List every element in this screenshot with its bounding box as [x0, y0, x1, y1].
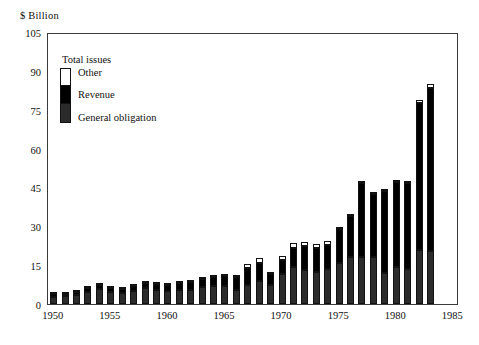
bar-segment-revenue [404, 183, 411, 269]
bar-segment-general-obligation [313, 272, 320, 304]
bar [233, 276, 240, 304]
bar [107, 288, 114, 304]
bar-segment-revenue [221, 276, 228, 286]
bar-segment-general-obligation [142, 288, 149, 304]
bar [267, 273, 274, 304]
bar-segment-revenue [381, 191, 388, 273]
legend-label-revenue: Revenue [78, 90, 156, 101]
bar-segment-revenue [199, 279, 206, 288]
bar-segment-other [244, 264, 251, 268]
bar-segment-revenue [210, 277, 217, 286]
bar-segment-general-obligation [176, 290, 183, 304]
legend-label-other: Other [78, 68, 156, 79]
bar-segment-revenue [370, 194, 377, 256]
chart-legend: Total issues Other Revenue General oblig… [60, 54, 156, 123]
bar-segment-revenue [176, 283, 183, 289]
bar-segment-revenue [50, 294, 57, 296]
bar [244, 264, 251, 304]
bar-segment-other [142, 281, 149, 283]
legend-swatch-general-obligation [61, 104, 70, 122]
x-tick-label: 1955 [99, 310, 120, 321]
bar-segment-other [301, 242, 308, 247]
bar-segment-other [267, 272, 274, 274]
bar-segment-other [393, 180, 400, 182]
bar-segment-other [62, 292, 69, 294]
bar [336, 228, 343, 304]
bar-segment-general-obligation [187, 290, 194, 305]
bar [221, 275, 228, 304]
bar [199, 278, 206, 304]
legend-swatch-other [61, 69, 70, 86]
bar-segment-revenue [358, 183, 365, 257]
y-tick-label: 60 [11, 144, 41, 155]
bar-segment-revenue [324, 245, 331, 269]
bar [73, 291, 80, 304]
x-tick-label: 1985 [442, 310, 463, 321]
bar-segment-other [187, 280, 194, 282]
bar [381, 189, 388, 304]
bar-segment-other [233, 275, 240, 277]
bar-segment-general-obligation [404, 269, 411, 304]
bar-segment-revenue [336, 229, 343, 263]
bar-segment-revenue [393, 182, 400, 267]
bar-segment-other [210, 275, 217, 277]
bar [404, 181, 411, 304]
bar-segment-revenue [427, 88, 434, 251]
bar-segment-other [290, 243, 297, 248]
bar-segment-general-obligation [324, 269, 331, 304]
bar-segment-other [347, 214, 354, 216]
bar [210, 276, 217, 304]
legend-swatch [60, 68, 71, 123]
bar [290, 243, 297, 304]
bar-segment-revenue [416, 103, 423, 249]
bar-segment-general-obligation [301, 270, 308, 304]
bar-segment-revenue [73, 292, 80, 295]
bar-segment-general-obligation [347, 257, 354, 304]
bar-segment-general-obligation [199, 287, 206, 304]
bar-segment-general-obligation [358, 257, 365, 304]
chart-root: $ Billion 0153045607590105 1950195519601… [0, 0, 479, 345]
bar-segment-other [164, 283, 171, 285]
bar-segment-general-obligation [84, 292, 91, 304]
bar-segment-general-obligation [267, 285, 274, 304]
bar-segment-general-obligation [427, 251, 434, 304]
bar-segment-other [256, 258, 263, 262]
bar [62, 294, 69, 304]
bar-segment-revenue [290, 248, 297, 267]
bar-segment-revenue [313, 248, 320, 273]
bar-segment-revenue [267, 274, 274, 285]
bar-segment-other [119, 287, 126, 289]
bar-segment-other [324, 241, 331, 244]
bar-segment-general-obligation [336, 263, 343, 304]
legend-label-general-obligation: General obligation [78, 113, 156, 124]
bar [370, 193, 377, 304]
legend-swatch-revenue [61, 86, 70, 103]
bar-segment-other [370, 192, 377, 194]
bar-segment-other [313, 244, 320, 248]
bar [358, 181, 365, 304]
y-tick-label: 75 [11, 105, 41, 116]
bar-segment-other [176, 281, 183, 283]
bar [256, 258, 263, 304]
bar-segment-revenue [164, 285, 171, 291]
bar [50, 294, 57, 304]
x-tick-label: 1975 [328, 310, 349, 321]
bar-segment-general-obligation [381, 273, 388, 304]
bar-segment-revenue [233, 277, 240, 290]
y-axis-title: $ Billion [20, 10, 59, 21]
bar-segment-revenue [62, 294, 69, 296]
bar-segment-revenue [256, 263, 263, 282]
bar-segment-other [107, 286, 114, 288]
bar-segment-general-obligation [256, 281, 263, 304]
bar-segment-revenue [119, 289, 126, 293]
bar-segment-other [50, 292, 57, 294]
bar [393, 180, 400, 304]
x-tick-label: 1970 [271, 310, 292, 321]
bar [153, 284, 160, 304]
bar-segment-general-obligation [119, 293, 126, 304]
bar-segment-general-obligation [370, 257, 377, 304]
x-tick-label: 1960 [156, 310, 177, 321]
y-tick-label: 90 [11, 66, 41, 77]
bar-segment-general-obligation [393, 267, 400, 304]
bar [119, 288, 126, 304]
